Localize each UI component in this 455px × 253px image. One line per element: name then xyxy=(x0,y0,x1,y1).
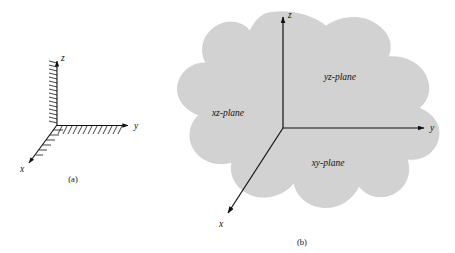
coordinate-planes-figure: z y x (a) z y x yz-plane xz-plane xy-pla… xyxy=(0,0,455,253)
panel-b-region-label-xz: xz-plane xyxy=(211,108,244,118)
panel-b-caption: (b) xyxy=(297,237,307,247)
panel-b-region-label-yz: yz-plane xyxy=(323,72,356,82)
panel-a-caption: (a) xyxy=(68,174,78,184)
panel-b-y-axis-label: y xyxy=(429,123,435,133)
panel-b: z y x yz-plane xz-plane xy-plane (b) xyxy=(177,10,439,247)
panel-b-x-axis-label: x xyxy=(218,219,224,229)
panel-a-z-axis-hatching xyxy=(49,61,57,123)
panel-a-z-axis-label: z xyxy=(60,53,65,63)
figure-container: z y x (a) z y x yz-plane xz-plane xy-pla… xyxy=(0,0,455,253)
panel-a-y-axis-label: y xyxy=(133,121,139,131)
panel-b-region-label-xy: xy-plane xyxy=(311,158,345,168)
panel-b-z-axis-label: z xyxy=(287,10,292,20)
panel-a-x-axis xyxy=(29,125,57,163)
panel-a: z y x (a) xyxy=(19,53,139,184)
panel-a-x-axis-label: x xyxy=(19,164,25,174)
panel-a-x-axis-hatching xyxy=(36,130,64,155)
panel-a-y-axis-hatching xyxy=(58,126,122,134)
